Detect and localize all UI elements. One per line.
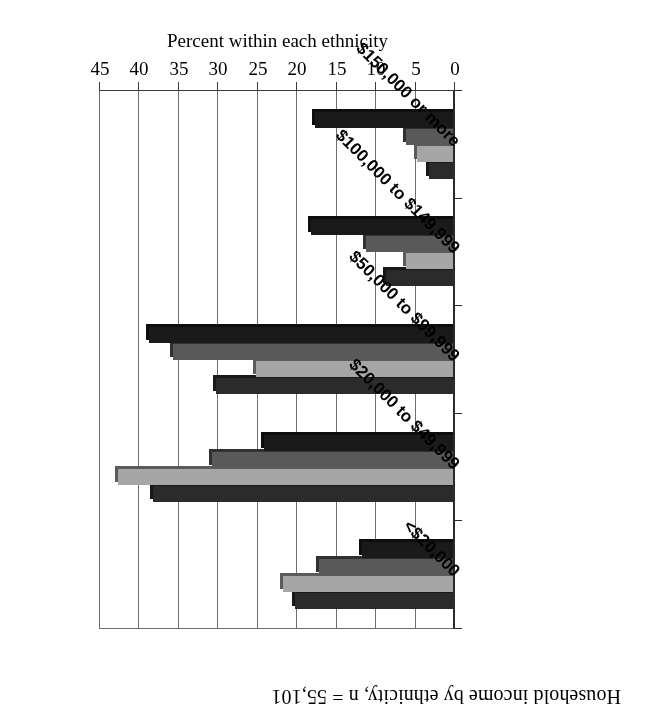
gridline-30 — [217, 91, 218, 629]
value-axis-title: Percent within each ethnicity — [100, 30, 455, 52]
category-axis-labels: <$20,000$20,000 to $49,999$50,000 to $99… — [453, 91, 649, 629]
value-tick-10 — [375, 82, 376, 91]
plot-top-rule — [100, 628, 455, 629]
bar-4-0 — [429, 163, 453, 179]
value-tick-40 — [138, 82, 139, 91]
value-tick-25 — [257, 82, 258, 91]
bar-0-1 — [283, 576, 453, 592]
value-tick-label-30: 30 — [209, 58, 228, 80]
value-tick-15 — [336, 82, 337, 91]
gridline-40 — [138, 91, 139, 629]
chart-title: Household income by ethnicity, n = 55,10… — [21, 685, 621, 708]
gridline-35 — [178, 91, 179, 629]
bar-2-2 — [173, 344, 453, 360]
value-tick-label-0: 0 — [450, 58, 460, 80]
value-tick-45 — [99, 82, 100, 91]
value-tick-label-15: 15 — [327, 58, 346, 80]
value-tick-20 — [296, 82, 297, 91]
value-tick-label-45: 45 — [91, 58, 110, 80]
value-tick-35 — [178, 82, 179, 91]
bar-0-0 — [295, 593, 453, 609]
bar-3-1 — [406, 253, 453, 269]
bar-1-2 — [212, 452, 453, 468]
value-tick-30 — [217, 82, 218, 91]
value-tick-label-20: 20 — [288, 58, 307, 80]
value-tick-label-25: 25 — [248, 58, 267, 80]
gridline-45 — [99, 91, 100, 629]
bar-1-0 — [153, 486, 453, 502]
value-tick-label-5: 5 — [411, 58, 421, 80]
value-tick-0 — [454, 82, 455, 91]
value-tick-label-40: 40 — [130, 58, 149, 80]
value-tick-label-35: 35 — [169, 58, 188, 80]
plot-area — [100, 91, 455, 629]
bar-1-1 — [118, 469, 453, 485]
bar-2-3 — [149, 327, 453, 343]
bar-2-0 — [216, 378, 453, 394]
